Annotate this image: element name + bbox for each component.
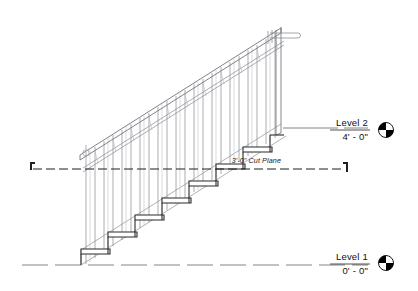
drawing-canvas: 3'-0" Cut Plane Level 2 4' - 0" Level 1 … [0,0,418,291]
stair-section-drawing: 3'-0" Cut Plane Level 2 4' - 0" Level 1 … [0,0,418,291]
level-2-marker-icon [379,123,394,138]
sheet-background [0,0,418,291]
level-1-marker-icon [379,256,394,271]
level-2-elevation: 4' - 0" [342,131,368,142]
level-2-name: Level 2 [336,117,368,128]
cut-plane-label: 3'-0" Cut Plane [232,156,281,165]
level-1-name: Level 1 [336,251,368,262]
level-1-elevation: 0' - 0" [342,265,368,276]
